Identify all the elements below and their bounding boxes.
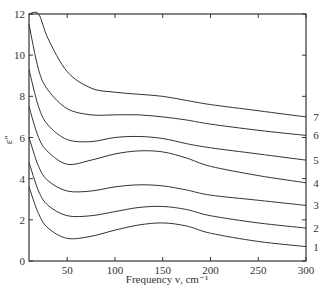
x-tick-label: 250 [250,264,267,276]
curve-label: 1 [313,241,319,253]
x-axis-ticks: 50100150200250300 [62,14,315,276]
curve-label: 4 [313,177,319,189]
x-axis-title: Frequency ν, cm⁻¹ [126,273,208,285]
y-tick-label: 2 [20,214,26,226]
curve-label: 7 [313,111,319,123]
x-tick-label: 100 [107,264,124,276]
y-axis-ticks: 024681012 [14,8,306,267]
y-tick-label: 12 [14,8,25,20]
curve-6 [29,24,306,135]
curve-label: 6 [313,129,319,141]
y-tick-label: 8 [20,90,26,102]
y-tick-label: 4 [20,173,26,185]
curve-2 [29,162,306,228]
curve-7 [29,12,306,117]
curve-label: 5 [313,154,319,166]
x-tick-label: 300 [298,264,315,276]
curve-3 [29,138,306,206]
curve-label: 3 [313,199,319,211]
curve-labels: 1234567 [313,111,319,253]
y-tick-label: 6 [20,132,26,144]
data-curves [29,12,306,246]
curve-label: 2 [313,222,319,234]
curve-4 [29,107,306,183]
y-tick-label: 0 [20,255,26,267]
y-axis-title: ε'' [2,136,14,145]
y-tick-label: 10 [14,49,26,61]
chart: 50100150200250300 024681012 1234567 Freq… [0,0,332,299]
x-tick-label: 50 [62,264,74,276]
curve-5 [29,70,306,161]
